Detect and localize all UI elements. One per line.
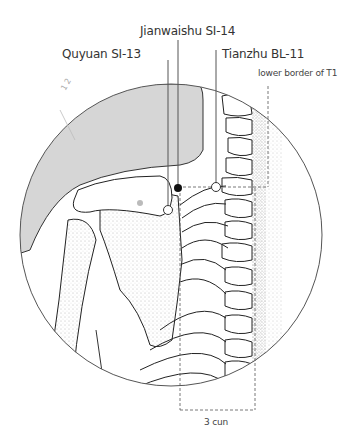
label-jianwaishu: Jianwaishu SI-14 [140, 24, 235, 38]
anatomy-illustration [0, 0, 339, 444]
label-quyuan: Quyuan SI-13 [62, 47, 141, 61]
label-t1-border: lower border of T1 [258, 68, 337, 78]
label-tianzhu: Tianzhu BL-11 [222, 47, 304, 61]
point-quyuan [164, 206, 173, 215]
label-3-cun: 3 cun [204, 417, 228, 427]
point-tianzhu [212, 183, 221, 192]
magnified-view-circle [0, 0, 339, 444]
point-jianwaishu [174, 184, 182, 192]
